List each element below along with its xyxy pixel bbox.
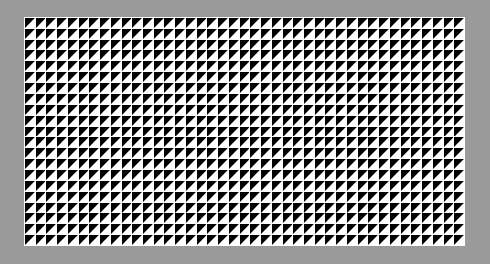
triangle-cell bbox=[250, 83, 260, 93]
triangle-cell bbox=[100, 203, 110, 213]
triangle-cell bbox=[315, 50, 325, 60]
triangle-cell bbox=[154, 224, 164, 234]
triangle-cell bbox=[175, 224, 185, 234]
triangle-cell bbox=[122, 40, 132, 50]
triangle-cell bbox=[336, 159, 346, 169]
triangle-icon bbox=[186, 50, 196, 60]
triangle-cell bbox=[368, 137, 378, 147]
triangle-icon bbox=[132, 116, 142, 126]
triangle-icon bbox=[164, 94, 174, 104]
triangle-cell bbox=[186, 83, 196, 93]
triangle-icon bbox=[36, 235, 46, 245]
triangle-icon bbox=[240, 170, 250, 180]
triangle-icon bbox=[100, 170, 110, 180]
triangle-cell bbox=[89, 72, 99, 82]
triangle-cell bbox=[68, 94, 78, 104]
triangle-icon bbox=[390, 170, 400, 180]
triangle-icon bbox=[154, 105, 164, 115]
triangle-cell bbox=[46, 224, 56, 234]
triangle-icon bbox=[422, 159, 432, 169]
triangle-cell bbox=[325, 224, 335, 234]
triangle-cell bbox=[36, 235, 46, 245]
triangle-cell bbox=[100, 192, 110, 202]
triangle-cell bbox=[175, 148, 185, 158]
triangle-icon bbox=[240, 94, 250, 104]
triangle-icon bbox=[261, 83, 271, 93]
triangle-icon bbox=[218, 72, 228, 82]
triangle-icon bbox=[143, 105, 153, 115]
triangle-cell bbox=[186, 94, 196, 104]
triangle-cell bbox=[454, 50, 464, 60]
triangle-cell bbox=[390, 83, 400, 93]
triangle-cell bbox=[411, 105, 421, 115]
triangle-cell bbox=[315, 235, 325, 245]
triangle-cell bbox=[186, 50, 196, 60]
triangle-icon bbox=[240, 235, 250, 245]
triangle-cell bbox=[379, 170, 389, 180]
triangle-icon bbox=[111, 72, 121, 82]
triangle-icon bbox=[347, 127, 357, 137]
triangle-cell bbox=[122, 181, 132, 191]
triangle-cell bbox=[444, 94, 454, 104]
triangle-cell bbox=[154, 105, 164, 115]
triangle-cell bbox=[283, 224, 293, 234]
triangle-cell bbox=[390, 61, 400, 71]
triangle-icon bbox=[240, 192, 250, 202]
triangle-icon bbox=[36, 137, 46, 147]
triangle-icon bbox=[325, 170, 335, 180]
triangle-cell bbox=[197, 213, 207, 223]
triangle-cell bbox=[304, 40, 314, 50]
triangle-icon bbox=[57, 148, 67, 158]
triangle-cell bbox=[390, 148, 400, 158]
triangle-icon bbox=[368, 213, 378, 223]
triangle-cell bbox=[293, 192, 303, 202]
triangle-icon bbox=[143, 213, 153, 223]
triangle-icon bbox=[411, 72, 421, 82]
triangle-cell bbox=[186, 105, 196, 115]
triangle-icon bbox=[229, 50, 239, 60]
triangle-icon bbox=[240, 203, 250, 213]
triangle-icon bbox=[186, 235, 196, 245]
triangle-cell bbox=[100, 137, 110, 147]
triangle-icon bbox=[293, 235, 303, 245]
triangle-icon bbox=[57, 50, 67, 60]
triangle-cell bbox=[379, 29, 389, 39]
triangle-icon bbox=[186, 159, 196, 169]
triangle-icon bbox=[315, 29, 325, 39]
triangle-cell bbox=[154, 29, 164, 39]
triangle-cell bbox=[272, 148, 282, 158]
triangle-icon bbox=[422, 137, 432, 147]
triangle-icon bbox=[454, 148, 464, 158]
triangle-icon bbox=[325, 40, 335, 50]
triangle-cell bbox=[122, 170, 132, 180]
triangle-cell bbox=[293, 94, 303, 104]
triangle-cell bbox=[68, 224, 78, 234]
triangle-icon bbox=[315, 83, 325, 93]
triangle-icon bbox=[422, 105, 432, 115]
triangle-icon bbox=[444, 50, 454, 60]
triangle-icon bbox=[79, 170, 89, 180]
triangle-icon bbox=[358, 83, 368, 93]
triangle-cell bbox=[154, 72, 164, 82]
triangle-cell bbox=[207, 29, 217, 39]
triangle-cell bbox=[175, 137, 185, 147]
triangle-cell bbox=[315, 29, 325, 39]
triangle-cell bbox=[68, 235, 78, 245]
triangle-icon bbox=[164, 213, 174, 223]
triangle-cell bbox=[283, 72, 293, 82]
triangle-icon bbox=[197, 72, 207, 82]
triangle-cell bbox=[358, 181, 368, 191]
triangle-cell bbox=[379, 94, 389, 104]
triangle-icon bbox=[315, 159, 325, 169]
triangle-icon bbox=[229, 170, 239, 180]
triangle-icon bbox=[68, 159, 78, 169]
triangle-cell bbox=[164, 50, 174, 60]
triangle-icon bbox=[186, 94, 196, 104]
triangle-cell bbox=[122, 18, 132, 28]
triangle-cell bbox=[197, 159, 207, 169]
triangle-icon bbox=[46, 105, 56, 115]
triangle-cell bbox=[186, 159, 196, 169]
triangle-cell bbox=[68, 40, 78, 50]
triangle-icon bbox=[132, 29, 142, 39]
triangle-cell bbox=[186, 148, 196, 158]
